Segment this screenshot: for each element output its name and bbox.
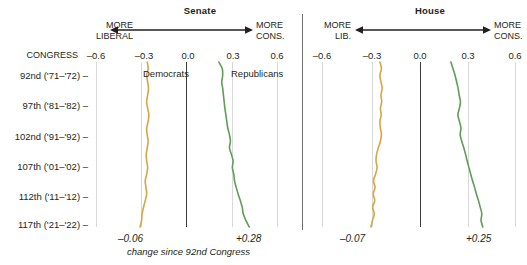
xtick-label-senate-3: 0.3 <box>213 50 253 61</box>
chart-root: Senate MORE LIBERAL MORE CONS. CONGRESS … <box>0 0 527 265</box>
row-label-1: 97th ('81–'82) – <box>0 100 88 111</box>
delta-senate-democrats: –0.06 <box>118 233 143 244</box>
plot-area-house <box>322 62 515 227</box>
axis-caption-line2: LIB. <box>335 31 351 41</box>
panel-divider <box>302 14 303 230</box>
series-label-senate-republicans: Republicans <box>231 68 283 79</box>
axis-caption-line2: CONS. <box>256 31 285 41</box>
xtick-label-senate-2: 0.0 <box>168 50 208 61</box>
axis-arrow-house <box>355 24 491 36</box>
xtick-label-house-4: 0.6 <box>495 50 527 61</box>
series-lines-senate <box>96 62 277 227</box>
axis-caption-line2: CONS. <box>494 31 523 41</box>
xtick-label-house-2: 0.0 <box>400 50 440 61</box>
row-label-0: 92nd ('71–'72) – <box>0 70 88 81</box>
series-line-house-republicans <box>451 62 483 227</box>
plot-area-senate <box>96 62 277 227</box>
series-line-senate-republicans <box>219 62 249 227</box>
row-label-5: 117th ('21–'22) – <box>0 219 88 230</box>
panel-title-senate: Senate <box>140 5 260 16</box>
xtick-label-house-0: –0.6 <box>302 50 342 61</box>
delta-house-republicans: +0.25 <box>466 233 491 244</box>
gridline-house-0.6 <box>515 62 516 227</box>
row-label-4: 112th ('11–'12) – <box>0 191 88 202</box>
axis-caption-house-left: MORE LIB. <box>306 20 351 41</box>
xtick-label-house-3: 0.3 <box>448 50 488 61</box>
congress-column-header: CONGRESS <box>8 50 78 60</box>
xtick-label-senate-0: –0.6 <box>76 50 116 61</box>
axis-arrow-senate <box>110 24 253 36</box>
delta-house-democrats: –0.07 <box>340 233 365 244</box>
axis-caption-line1: MORE <box>324 20 351 30</box>
delta-senate-republicans: +0.28 <box>236 233 261 244</box>
axis-caption-house-right: MORE CONS. <box>494 20 527 41</box>
axis-caption-senate-right: MORE CONS. <box>256 20 302 41</box>
series-label-senate-democrats: Democrats <box>143 68 189 79</box>
chart-caption: change since 92nd Congress <box>127 246 250 257</box>
series-line-senate-democrats <box>140 62 149 227</box>
panel-title-house: House <box>370 5 490 16</box>
gridline-senate-0.6 <box>277 62 278 227</box>
series-lines-house <box>322 62 515 227</box>
xtick-label-senate-1: –0.3 <box>124 50 164 61</box>
axis-caption-line1: MORE <box>494 20 521 30</box>
row-label-2: 102nd ('91–'92) – <box>0 131 88 142</box>
xtick-label-senate-4: 0.6 <box>257 50 297 61</box>
row-label-3: 107th ('01–'02) – <box>0 161 88 172</box>
series-line-house-democrats <box>371 62 382 227</box>
axis-caption-line1: MORE <box>256 20 283 30</box>
xtick-label-house-1: –0.3 <box>352 50 392 61</box>
